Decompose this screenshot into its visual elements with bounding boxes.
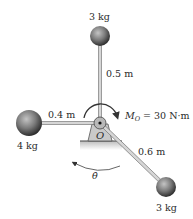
moment-value: = 30 N·m (140, 110, 189, 121)
pivot-label: O (96, 131, 104, 141)
left-arm-length-label: 0.4 m (48, 110, 75, 120)
lower-right-mass-sphere (156, 177, 176, 197)
moment-label: MO = 30 N·m (125, 111, 190, 123)
pivot-hub (94, 117, 106, 129)
lower-right-mass-label: 3 kg (156, 203, 177, 213)
top-mass-label: 3 kg (89, 12, 110, 22)
rigid-body-diagram: 3 kg 0.5 m 0.4 m 4 kg 0.6 m 3 kg O MO = … (0, 0, 193, 219)
angular-velocity-label: θ̇ (92, 171, 98, 181)
moment-symbol: M (125, 110, 135, 121)
left-mass-sphere (16, 110, 42, 136)
top-arm-length-label: 0.5 m (106, 69, 133, 79)
lower-right-arm-length-label: 0.6 m (138, 147, 165, 157)
left-mass-label: 4 kg (17, 141, 38, 151)
top-mass-sphere (90, 26, 110, 46)
